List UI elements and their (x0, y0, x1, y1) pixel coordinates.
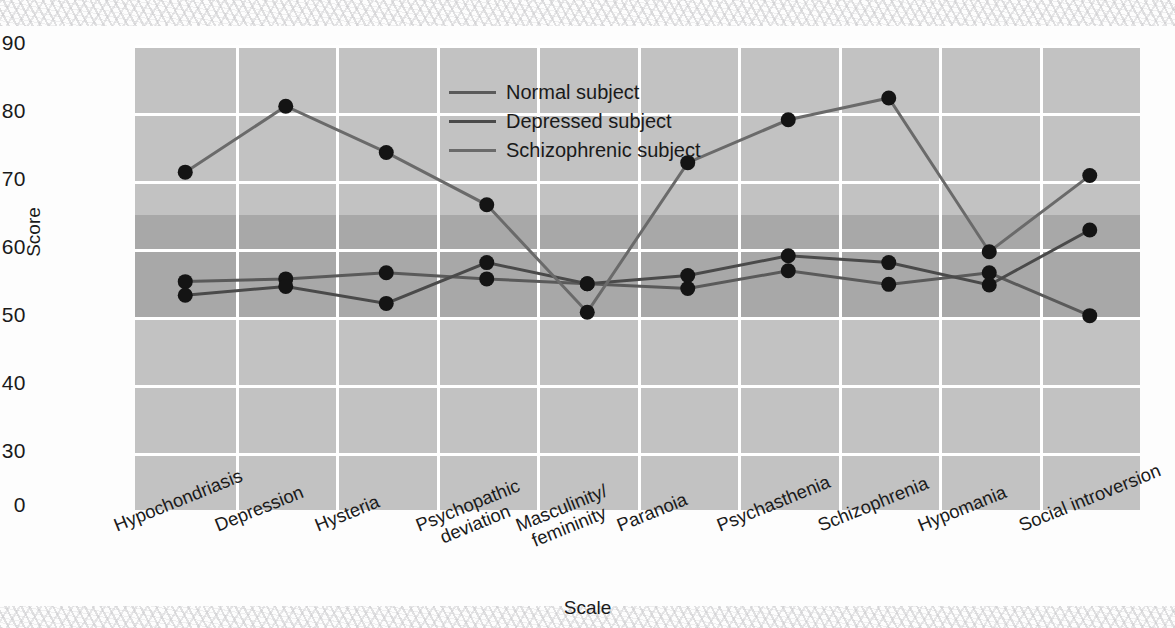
legend-line-swatch (449, 120, 496, 123)
legend-item-3: Schizophrenic subject (449, 136, 701, 165)
data-point (379, 265, 394, 280)
y-axis-title: Score (23, 207, 45, 257)
data-point (680, 268, 695, 283)
data-point (580, 305, 595, 320)
data-point (1082, 222, 1097, 237)
data-point (781, 248, 796, 263)
data-point (881, 91, 896, 106)
data-point (781, 112, 796, 127)
scan-texture-top (0, 0, 1175, 26)
legend-line-swatch (449, 149, 496, 152)
data-point (479, 271, 494, 286)
y-axis-tick-label: 40 (0, 371, 26, 395)
y-axis-tick-label: 30 (0, 439, 26, 463)
data-point (278, 99, 293, 114)
data-point (781, 263, 796, 278)
data-point (278, 279, 293, 294)
data-point (881, 255, 896, 270)
legend-label: Normal subject (506, 78, 639, 107)
data-point (580, 276, 595, 291)
legend-item-2: Depressed subject (449, 107, 701, 136)
data-point (881, 277, 896, 292)
y-axis-tick-label: 50 (0, 303, 26, 327)
legend-item-1: Normal subject (449, 78, 701, 107)
y-axis-tick-label: 80 (0, 99, 26, 123)
data-point (479, 255, 494, 270)
data-point (982, 244, 997, 259)
data-point (178, 288, 193, 303)
legend-line-swatch (449, 91, 496, 94)
data-point (1082, 168, 1097, 183)
legend-label: Schizophrenic subject (506, 136, 701, 165)
y-axis-tick-label: 0 (0, 493, 26, 517)
data-point (982, 278, 997, 293)
data-point (479, 197, 494, 212)
data-point (178, 274, 193, 289)
data-point (379, 145, 394, 160)
data-point (379, 296, 394, 311)
data-point (178, 165, 193, 180)
mmpi-profile-figure: Score 908070605040300 Normal subjectDepr… (0, 0, 1175, 628)
y-axis-tick-label: 60 (0, 235, 26, 259)
x-axis-title: Scale (0, 597, 1175, 619)
y-axis-tick-label: 90 (0, 31, 26, 55)
series-1 (178, 263, 1098, 323)
data-point (680, 281, 695, 296)
legend: Normal subjectDepressed subjectSchizophr… (449, 78, 701, 165)
y-axis-tick-label: 70 (0, 167, 26, 191)
series-line (185, 230, 1090, 303)
legend-label: Depressed subject (506, 107, 672, 136)
data-point (1082, 308, 1097, 323)
